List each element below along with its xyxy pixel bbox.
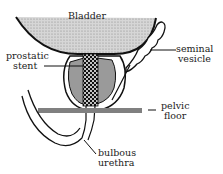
bladder	[16, 17, 156, 54]
label-prostatic-stent-2: stent	[13, 61, 37, 71]
label-pelvic-floor-2: floor	[164, 111, 186, 121]
bulbous-urethra-leader	[84, 140, 96, 154]
label-bladder: Bladder	[68, 11, 106, 21]
label-bulbous-urethra-2: urethra	[98, 158, 134, 168]
pelvic-floor	[38, 108, 142, 113]
label-seminal-vesicle-2: vesicle	[178, 54, 211, 64]
prostatic-stent	[83, 54, 98, 106]
